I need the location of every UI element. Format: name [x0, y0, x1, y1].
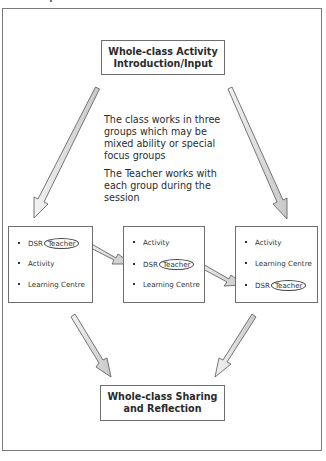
bottom-box-line2: and Reflection: [108, 403, 218, 415]
description-paragraph-2: The Teacher works with each group during…: [104, 168, 234, 204]
whole-class-sharing-box: Whole-class Sharing and Reflection: [100, 385, 225, 421]
description-paragraph-1: The class works in three groups which ma…: [104, 114, 234, 162]
bullet-icon: [18, 283, 20, 285]
group-3-item-3: DSRTeacher: [245, 280, 306, 291]
bottom-box-line1: Whole-class Sharing: [108, 391, 218, 403]
group-2-item-1: Activity: [133, 238, 170, 248]
bullet-icon: [133, 263, 135, 265]
group-3-item-2: Learning Centre: [245, 259, 312, 269]
group-box-1: DSRTeacher Activity Learning Centre: [8, 226, 93, 303]
bullet-icon: [18, 262, 20, 264]
group-1-item-3: Learning Centre: [18, 280, 85, 290]
bullet-icon: [18, 242, 20, 244]
group-2-item-3: Learning Centre: [133, 280, 200, 290]
top-box-line1: Whole-class Activity: [108, 46, 217, 58]
whole-class-introduction-box: Whole-class Activity Introduction/Input: [101, 40, 225, 75]
group-1-item-1: DSRTeacher: [18, 238, 79, 249]
bullet-icon: [245, 241, 247, 243]
scan-mark: [50, 0, 52, 2]
group-box-2: Activity DSRTeacher Learning Centre: [123, 226, 205, 303]
group-description: The class works in three groups which ma…: [104, 114, 234, 210]
teacher-highlight: Teacher: [159, 259, 195, 270]
group-3-item-1: Activity: [245, 238, 282, 248]
bullet-icon: [245, 284, 247, 286]
bullet-icon: [133, 241, 135, 243]
teacher-highlight: Teacher: [44, 238, 80, 249]
bullet-icon: [133, 283, 135, 285]
teacher-highlight: Teacher: [271, 280, 307, 291]
bullet-icon: [245, 262, 247, 264]
group-1-item-2: Activity: [18, 259, 55, 269]
group-2-item-2: DSRTeacher: [133, 259, 194, 270]
top-box-line2: Introduction/Input: [108, 58, 217, 70]
group-box-3: Activity Learning Centre DSRTeacher: [235, 226, 318, 303]
